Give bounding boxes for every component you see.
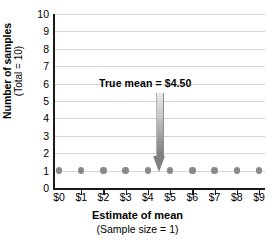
true-mean-annotation-label: True mean = $4.50: [99, 77, 191, 89]
arrow-head: [153, 156, 165, 172]
y-tick-label: 1: [33, 166, 49, 176]
data-point: [100, 167, 107, 174]
y-tick-label: 4: [33, 113, 49, 123]
y-tick-label: 6: [33, 79, 49, 89]
y-tick-label: 3: [33, 131, 49, 141]
x-axis-title-sub: (Sample size = 1): [0, 223, 275, 236]
gridline: [53, 49, 265, 50]
data-point: [56, 167, 63, 174]
x-axis-title-main: Estimate of mean: [0, 209, 275, 223]
y-tick-label: 10: [33, 9, 49, 19]
y-tick-label: 9: [33, 26, 49, 36]
x-axis-title: Estimate of mean (Sample size = 1): [0, 209, 275, 236]
x-axis-line: [53, 188, 265, 190]
x-tick-label: $9: [246, 191, 272, 203]
data-point: [256, 167, 263, 174]
y-axis-line: [53, 14, 55, 189]
data-point: [78, 167, 85, 174]
y-tick-label: 8: [33, 44, 49, 54]
chart-figure: Number of samples (Total = 10) 109876543…: [0, 0, 275, 245]
gridline: [53, 14, 265, 15]
data-point: [234, 167, 241, 174]
data-point: [189, 167, 196, 174]
gridline: [53, 31, 265, 32]
y-axis-title-sub: (Total = 10): [13, 1, 25, 141]
data-point: [167, 167, 174, 174]
y-tick-label: 2: [33, 148, 49, 158]
data-point: [145, 167, 152, 174]
y-tick-label: 5: [33, 96, 49, 106]
true-mean-arrow-icon: [153, 93, 166, 173]
gridline: [53, 66, 265, 67]
y-axis-title-main: Number of samples: [1, 1, 13, 141]
y-tick-label: 7: [33, 61, 49, 71]
x-axis-tick-labels: $0$1$2$3$4$5$6$7$8$9: [53, 191, 265, 205]
data-point: [211, 167, 218, 174]
data-point: [122, 167, 129, 174]
arrow-shaft: [156, 93, 164, 157]
